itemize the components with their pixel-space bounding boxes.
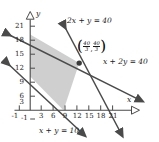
paren-close: ) bbox=[100, 40, 106, 54]
y-tick-label-15: 15 bbox=[15, 51, 24, 58]
x-tick-label-negative-one: -1 bbox=[12, 113, 19, 120]
graph-figure: 21 18 15 12 9 6 3 -1 3 -1 3 6 9 12 15 18… bbox=[0, 0, 159, 142]
x-tick-label-6: 6 bbox=[51, 113, 55, 120]
y-tick-label-18: 18 bbox=[15, 37, 24, 44]
x-tick-label-3: 3 bbox=[39, 113, 43, 120]
x-tick-label-12: 12 bbox=[73, 113, 82, 120]
y-axis-label: y bbox=[36, 10, 40, 18]
paren-open: ( bbox=[77, 40, 83, 54]
y-tick-label-12: 12 bbox=[15, 65, 24, 72]
x-tick-label-15: 15 bbox=[85, 113, 94, 120]
fraction-x-denominator: 3 bbox=[85, 47, 88, 53]
y-tick-label-21: 21 bbox=[15, 23, 24, 30]
y-tick-label-9: 9 bbox=[20, 79, 24, 86]
equation-label-2x-plus-y: 2x + y = 40 bbox=[67, 17, 112, 25]
y-tick-label-3: 3 bbox=[20, 99, 24, 106]
fraction-x: 40 3 bbox=[83, 41, 90, 53]
fraction-y: 40 3 bbox=[93, 41, 100, 53]
x-axis-ticks bbox=[19, 105, 112, 110]
x-tick-label-9: 9 bbox=[63, 113, 67, 120]
equation-label-x-plus-2y: x + 2y = 40 bbox=[103, 58, 148, 66]
feasible-region bbox=[30, 35, 79, 111]
x-axis-label: x bbox=[127, 96, 131, 104]
y-tick-label-negative-one: -1 bbox=[21, 115, 28, 122]
fraction-y-denominator: 3 bbox=[95, 47, 98, 53]
x-tick-label-18: 18 bbox=[97, 113, 106, 120]
x-tick-label-21: 21 bbox=[109, 113, 118, 120]
intersection-point-label: ( 40 3 , 40 3 ) bbox=[77, 40, 106, 54]
equation-label-x-plus-y: x + y = 10 bbox=[39, 127, 79, 135]
intersection-point-marker bbox=[77, 60, 82, 65]
